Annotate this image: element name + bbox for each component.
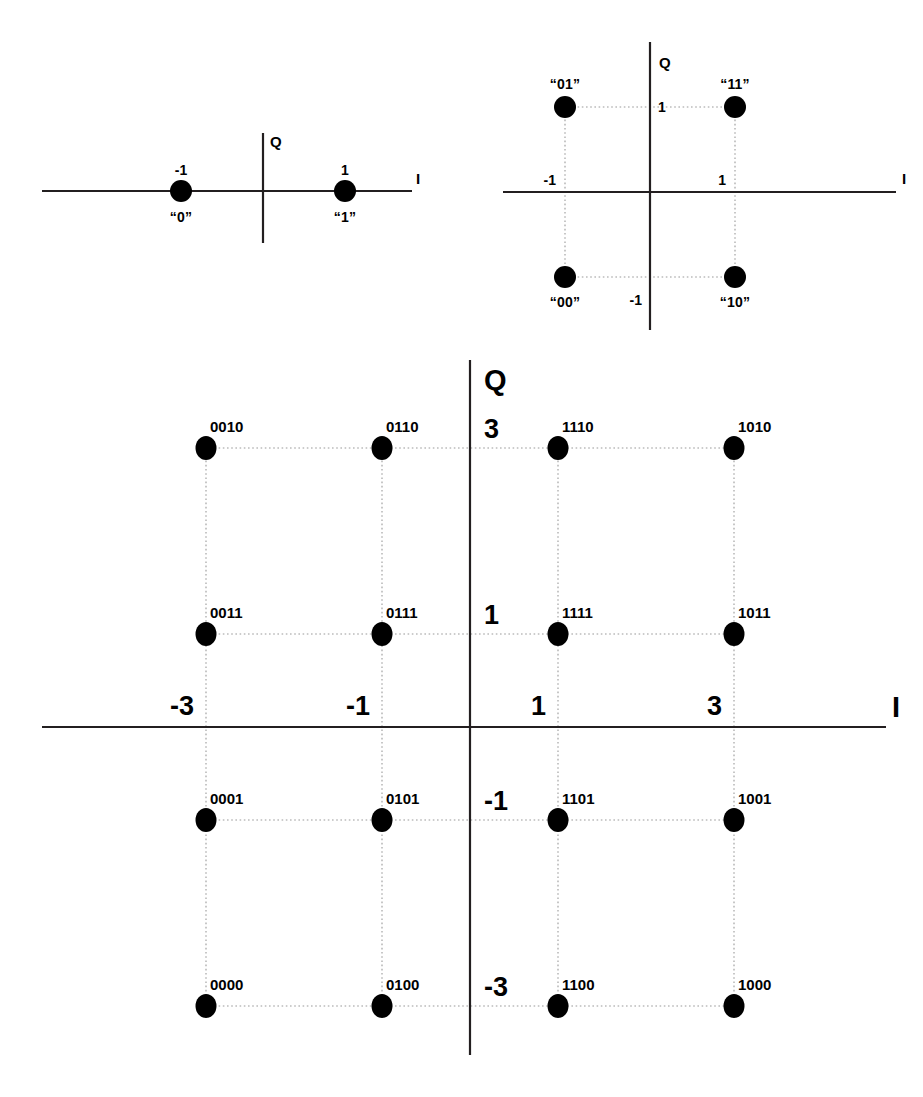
i-axis-label: I bbox=[416, 170, 420, 187]
constellation-point bbox=[170, 180, 192, 202]
q-tick-neg1: -1 bbox=[484, 786, 508, 816]
q-axis-label: Q bbox=[659, 54, 671, 71]
point-label: 1100 bbox=[562, 976, 595, 993]
constellation-point bbox=[196, 808, 217, 832]
point-label: “01” bbox=[550, 76, 580, 92]
constellation-point bbox=[548, 808, 569, 832]
point-label: 1001 bbox=[738, 790, 771, 807]
constellation-point bbox=[196, 994, 217, 1018]
point-label: 0011 bbox=[210, 604, 243, 621]
q-tick-neg1: -1 bbox=[630, 292, 643, 308]
plot-bpsk: IQ-1“0”1“1” bbox=[42, 133, 420, 243]
i-tick-1: 1 bbox=[531, 691, 546, 721]
point-label: 0101 bbox=[386, 790, 419, 807]
point-label: 1111 bbox=[562, 604, 593, 621]
point-label: “00” bbox=[550, 294, 580, 310]
constellation-point bbox=[724, 436, 745, 460]
i-tick-neg1: -1 bbox=[544, 172, 557, 188]
constellation-point bbox=[554, 266, 576, 288]
plot-qpsk: IQ-11-11“01”“11”“00”“10” bbox=[503, 42, 906, 330]
constellation-point bbox=[724, 808, 745, 832]
q-tick-1: 1 bbox=[484, 600, 499, 630]
i-tick-1: 1 bbox=[341, 162, 349, 178]
i-tick-1: 1 bbox=[718, 172, 726, 188]
q-axis-label: Q bbox=[484, 364, 507, 396]
constellation-point bbox=[724, 266, 746, 288]
constellation-point bbox=[372, 436, 393, 460]
constellation-point bbox=[548, 436, 569, 460]
i-tick-neg1: -1 bbox=[346, 691, 370, 721]
i-tick-3: 3 bbox=[707, 691, 722, 721]
point-label: 0001 bbox=[210, 790, 243, 807]
point-label: “1” bbox=[334, 209, 356, 225]
constellation-point bbox=[724, 622, 745, 646]
constellation-point bbox=[554, 96, 576, 118]
q-axis-label: Q bbox=[270, 133, 282, 150]
point-label: “11” bbox=[720, 76, 750, 92]
constellation-point bbox=[548, 994, 569, 1018]
point-label: 0110 bbox=[386, 418, 419, 435]
q-tick-1: 1 bbox=[658, 99, 666, 115]
constellation-point bbox=[724, 96, 746, 118]
point-label: 0100 bbox=[386, 976, 419, 993]
i-tick-neg1: -1 bbox=[175, 162, 188, 178]
constellation-point bbox=[372, 808, 393, 832]
constellation-point bbox=[372, 622, 393, 646]
point-label: 1101 bbox=[562, 790, 595, 807]
constellation-point bbox=[724, 994, 745, 1018]
constellation-point bbox=[196, 436, 217, 460]
constellation-figure: IQ-1“0”1“1”IQ-11-11“01”“11”“00”“10”IQ-3-… bbox=[0, 0, 923, 1097]
q-tick-3: 3 bbox=[484, 414, 499, 444]
point-label: 0010 bbox=[210, 418, 243, 435]
point-label: 1110 bbox=[562, 418, 594, 435]
panel-bpsk: IQ-1“0”1“1” bbox=[0, 0, 923, 1097]
plot-qam16: IQ-3-113-3-11300100110111010100011011111… bbox=[42, 360, 900, 1055]
point-label: “0” bbox=[170, 209, 192, 225]
constellation-point bbox=[334, 180, 356, 202]
point-label: 0111 bbox=[386, 604, 418, 621]
point-label: 0000 bbox=[210, 976, 243, 993]
point-label: 1011 bbox=[738, 604, 771, 621]
constellation-point bbox=[196, 622, 217, 646]
point-label: 1010 bbox=[738, 418, 771, 435]
i-axis-label: I bbox=[892, 691, 900, 723]
constellation-point bbox=[548, 622, 569, 646]
point-label: “10” bbox=[720, 294, 750, 310]
i-tick-neg3: -3 bbox=[170, 691, 194, 721]
i-axis-label: I bbox=[902, 170, 906, 187]
point-label: 1000 bbox=[738, 976, 771, 993]
q-tick-neg3: -3 bbox=[484, 972, 508, 1002]
panel-qpsk: IQ-11-11“01”“11”“00”“10” bbox=[0, 0, 923, 1097]
constellation-point bbox=[372, 994, 393, 1018]
panel-qam16: IQ-3-113-3-11300100110111010100011011111… bbox=[0, 0, 923, 1097]
